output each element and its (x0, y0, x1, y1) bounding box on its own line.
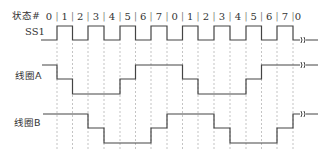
state-separator: | (196, 12, 199, 21)
state-number: 0 (295, 12, 301, 22)
header-state-label: 状态# (12, 11, 40, 21)
state-separator: | (275, 12, 278, 21)
state-separator: | (134, 12, 137, 21)
timing-diagram (0, 0, 331, 152)
state-separator: | (165, 12, 168, 21)
state-separator: | (86, 12, 89, 21)
state-number: 4 (109, 12, 115, 22)
state-separator: | (102, 12, 105, 21)
state-number: 6 (140, 12, 146, 22)
state-number: 4 (235, 12, 241, 22)
break-icon (301, 37, 318, 43)
state-separator: | (212, 12, 215, 21)
state-separator: | (291, 12, 294, 21)
signal-label-coil-b: 线圈B (14, 118, 41, 128)
state-separator: | (181, 12, 184, 21)
state-number: 2 (77, 12, 83, 22)
state-separator: | (228, 12, 231, 21)
state-number: 7 (156, 12, 162, 22)
state-separator: | (260, 12, 263, 21)
state-number: 5 (251, 12, 257, 22)
state-number: 6 (266, 12, 272, 22)
state-separator: | (244, 12, 247, 21)
state-separator: | (118, 12, 121, 21)
state-number: 1 (187, 12, 193, 22)
break-icon (301, 62, 318, 68)
state-number: 7 (282, 12, 288, 22)
waveform-1 (42, 65, 300, 94)
state-number: 1 (62, 12, 68, 22)
state-separator: | (55, 12, 58, 21)
state-separator: | (149, 12, 152, 21)
signal-label-coil-a: 线圈A (15, 71, 42, 81)
waveform-0 (41, 26, 300, 40)
state-boundary-dashed-lines (57, 43, 293, 150)
state-number: 2 (203, 12, 209, 22)
break-symbols (301, 37, 318, 117)
break-icon (301, 111, 318, 117)
signal-label-ss1: SS1 (25, 27, 45, 37)
state-number: 5 (125, 12, 131, 22)
state-number: 3 (93, 12, 99, 22)
state-number: 0 (172, 12, 178, 22)
state-separator: | (71, 12, 74, 21)
state-number: 0 (46, 12, 52, 22)
state-number: 3 (219, 12, 225, 22)
